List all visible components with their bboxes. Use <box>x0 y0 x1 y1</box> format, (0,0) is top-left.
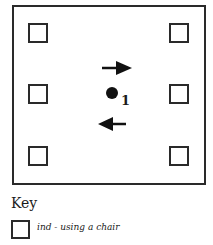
chair-bottom-left <box>28 146 48 166</box>
chair-top-right <box>169 23 189 43</box>
arrow-right-icon <box>100 60 134 76</box>
key-item-label: ind - using a chair <box>37 222 120 232</box>
person-label: 1 <box>121 93 130 108</box>
person-dot <box>106 87 118 99</box>
chair-top-left <box>28 23 48 43</box>
chair-mid-left <box>28 84 48 104</box>
chair-bottom-right <box>169 146 189 166</box>
chair-mid-right <box>169 84 189 104</box>
key-title: Key <box>11 195 37 211</box>
arrow-left-icon <box>96 116 128 132</box>
key-chair-symbol <box>11 220 30 239</box>
